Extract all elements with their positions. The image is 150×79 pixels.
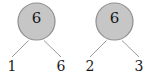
edge-root-to-right-leaf [122,41,139,58]
factor-tree-1: 6 2 3 [75,0,150,79]
leaf-label-left: 2 [81,59,99,73]
leaf-label-left: 1 [3,59,21,73]
root-node-label: 6 [96,11,133,26]
factor-tree-0: 6 1 6 [0,0,75,79]
leaf-label-right: 6 [52,59,70,73]
edge-root-to-right-leaf [44,41,61,58]
edge-root-to-left-leaf [90,41,107,58]
edge-root-to-left-leaf [12,41,29,58]
leaf-label-right: 3 [130,59,148,73]
root-node-label: 6 [18,11,55,26]
diagram-canvas: 6 1 6 6 2 3 [0,0,150,79]
